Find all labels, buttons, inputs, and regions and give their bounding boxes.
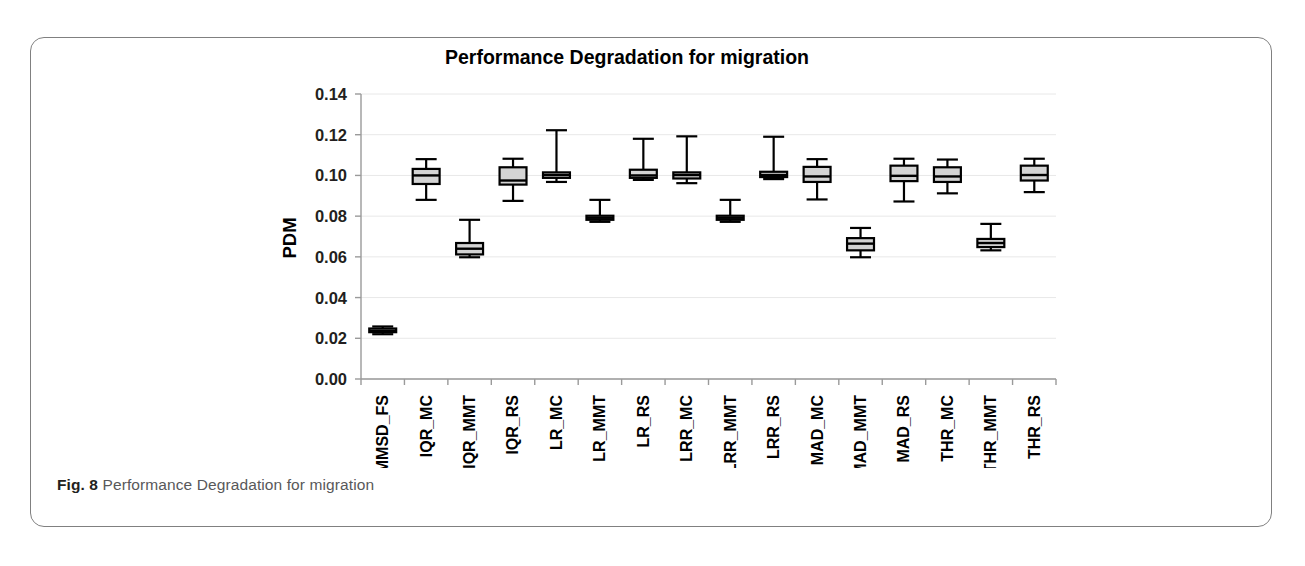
- box-plot-item: [804, 159, 831, 199]
- x-axis-category-label: LR_RS: [635, 395, 652, 448]
- x-axis-category-label: MMSD_FS: [374, 395, 391, 468]
- box-plot-item: [717, 200, 744, 222]
- x-axis-category-label: MAD_RS: [895, 395, 912, 463]
- box-plot-item: [847, 228, 874, 257]
- box-plot-item: [413, 159, 440, 200]
- box-plot-item: [586, 200, 613, 222]
- y-axis-tick-label: 0.02: [315, 329, 347, 347]
- figure-caption: Fig. 8 Performance Degradation for migra…: [57, 476, 1237, 494]
- box-plot-item: [673, 136, 700, 183]
- box-plot-item: [369, 326, 396, 334]
- x-axis-category-label: THR_MMT: [982, 395, 999, 468]
- x-axis-category-label: LRR_RS: [765, 395, 782, 459]
- box-plot-item: [543, 130, 570, 182]
- box-plot-item: [630, 139, 657, 180]
- x-axis-category-label: MAD_MC: [809, 395, 826, 466]
- gridlines: [361, 94, 1056, 379]
- figure-caption-label: Fig. 8: [57, 476, 98, 493]
- y-axis-tick-label: 0.04: [315, 289, 348, 307]
- y-axis-tick-label: 0.14: [315, 85, 348, 103]
- x-axis-category-label: LRR_MC: [678, 395, 695, 462]
- figure-caption-text: Performance Degradation for migration: [103, 476, 375, 493]
- y-axis-tick-label: 0.12: [315, 126, 347, 144]
- x-axis-category-labels: MMSD_FSIQR_MCIQR_MMTIQR_RSLR_MCLR_MMTLR_…: [374, 395, 1043, 468]
- x-axis-category-label: LR_MMT: [591, 395, 608, 462]
- figure-card: Performance Degradation for migration PD…: [30, 37, 1272, 527]
- x-axis-category-label: LRR_MMT: [722, 395, 739, 468]
- x-axis-category-label: MAD_MMT: [852, 395, 869, 468]
- y-axis-tick-label: 0.10: [315, 166, 347, 184]
- box-plot-item: [500, 159, 527, 201]
- boxplot-chart: Performance Degradation for migration PD…: [31, 38, 1273, 468]
- x-axis-category-label: IQR_MMT: [461, 395, 478, 468]
- y-axis-tick-label: 0.00: [315, 370, 347, 388]
- y-axis-tick-label: 0.06: [315, 248, 347, 266]
- box-plot-series: [369, 130, 1047, 334]
- x-axis-category-label: IQR_MC: [418, 395, 435, 458]
- x-axis-category-label: IQR_RS: [504, 395, 521, 455]
- box-plot-item: [760, 137, 787, 179]
- y-axis-ticks: 0.000.020.040.060.080.100.120.14: [315, 85, 361, 388]
- x-axis-category-label: THR_RS: [1026, 395, 1043, 459]
- box-plot-item: [1021, 159, 1048, 192]
- x-axis-ticks: [361, 379, 1056, 385]
- box-plot-item: [934, 160, 961, 194]
- box-plot-item: [456, 220, 483, 257]
- box-plot-item: [891, 159, 918, 202]
- chart-title: Performance Degradation for migration: [445, 46, 809, 68]
- box-plot-item: [977, 224, 1004, 250]
- chart-area: Performance Degradation for migration PD…: [31, 38, 1273, 468]
- y-axis-tick-label: 0.08: [315, 207, 347, 225]
- y-axis-title: PDM: [279, 217, 300, 258]
- x-axis-category-label: LR_MC: [548, 395, 565, 451]
- x-axis-category-label: THR_MC: [939, 395, 956, 462]
